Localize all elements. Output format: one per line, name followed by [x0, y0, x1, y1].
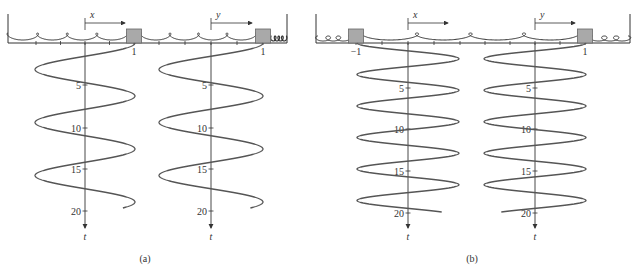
caption-b: (b): [466, 253, 478, 265]
displacement-label: x: [89, 9, 95, 20]
displacement-curves: [35, 43, 263, 208]
t-tick-label: 15: [71, 164, 81, 175]
displacement-curves: [357, 43, 586, 212]
t-axis-label: t: [407, 231, 410, 242]
panel-a: 11 x5101520ty5101520t (a): [7, 9, 287, 265]
t-tick-label: 10: [197, 123, 207, 134]
mass-block: [127, 29, 142, 43]
t-tick-label: 5: [399, 83, 404, 94]
mass-label: −1: [351, 46, 362, 57]
t-axis-label: t: [210, 231, 213, 242]
t-tick-label: 10: [71, 123, 81, 134]
mass-label: 1: [132, 46, 137, 57]
mass-label: 1: [261, 46, 266, 57]
spring-right: [271, 36, 287, 41]
t-axis-label: t: [534, 231, 537, 242]
t-tick-label: 20: [197, 206, 207, 217]
t-tick-label: 10: [394, 124, 404, 135]
displacement-label: y: [539, 9, 545, 20]
t-tick-label: 15: [394, 166, 404, 177]
coupled-oscillator-diagram: 11 x5101520ty5101520t (a) −11 x5101520ty…: [0, 0, 636, 278]
mass-block: [349, 29, 364, 43]
t-tick-label: 5: [526, 83, 531, 94]
t-tick-label: 20: [394, 208, 404, 219]
t-tick-label: 20: [71, 206, 81, 217]
spring-right: [590, 36, 631, 41]
displacement-label: x: [412, 9, 418, 20]
spring-middle: [362, 33, 579, 40]
t-tick-label: 15: [521, 166, 531, 177]
t-tick-label: 15: [197, 164, 207, 175]
spring-left: [7, 33, 127, 40]
displacement-label: y: [215, 9, 221, 20]
t-axis-label: t: [84, 231, 87, 242]
spring-middle: [141, 33, 257, 40]
caption-a: (a): [139, 253, 150, 265]
mass-label: 1: [583, 46, 588, 57]
mass-block: [256, 29, 271, 43]
springs: [7, 33, 287, 41]
panel-b: −11 x5101520ty5101520t (b): [316, 9, 631, 265]
mass-block: [578, 29, 593, 43]
spring-left: [316, 36, 351, 41]
